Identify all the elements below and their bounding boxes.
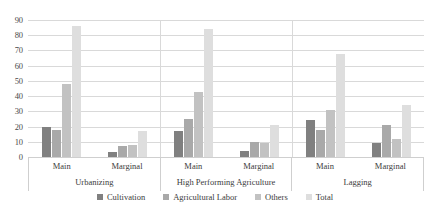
plot-area [28,20,424,157]
bar-subgroup [292,20,358,157]
bar-subgroup [160,20,226,157]
category-group-label: Lagging [292,174,423,190]
bar [382,125,391,157]
chart-legend: CultivationAgricultural LaborOthersTotal [0,193,430,202]
y-axis-tick-label: 10 [15,138,23,147]
grouped-bar-chart: 9080706050403020100 MainMarginalUrbanizi… [0,0,430,217]
bar-subgroup [28,20,94,157]
legend-item[interactable]: Total [306,193,333,202]
legend-label: Agricultural Labor [173,193,237,202]
legend-label: Cultivation [107,193,145,202]
bars-layer [28,20,424,157]
legend-label: Others [265,193,288,202]
bar [52,130,61,157]
bar [204,29,213,157]
legend-label: Total [316,193,333,202]
legend-swatch-icon [163,194,169,200]
bar [326,110,335,157]
legend-swatch-icon [306,194,312,200]
legend-item[interactable]: Agricultural Labor [163,193,237,202]
y-axis-tick-label: 40 [15,92,23,101]
bar [128,145,137,157]
category-sub-label: Main [29,158,94,174]
legend-item[interactable]: Cultivation [97,193,145,202]
category-group: MainMarginalLagging [292,158,424,191]
bar [138,131,147,157]
bar-subgroup [226,20,292,157]
bar [392,139,401,157]
bar [118,146,127,157]
bar [260,143,269,157]
bar-group [160,20,292,157]
bar [194,92,203,157]
bar [270,125,279,157]
legend-swatch-icon [97,194,103,200]
category-sub-label: Main [292,158,357,174]
bar [184,119,193,157]
y-axis-tick-label: 60 [15,61,23,70]
bar-group [28,20,160,157]
category-group: MainMarginalHigh Performing Agriculture [161,158,293,191]
y-axis-tick-label: 0 [19,153,23,162]
y-axis-tick-label: 80 [15,31,23,40]
category-sub-label: Marginal [226,158,291,174]
y-axis-tick-label: 30 [15,107,23,116]
bar [372,143,381,157]
bar [316,130,325,157]
y-axis-tick-label: 90 [15,16,23,25]
category-axis: MainMarginalUrbanizingMainMarginalHigh P… [28,157,424,191]
bar [250,142,259,157]
category-sub-label: Marginal [358,158,423,174]
category-group: MainMarginalUrbanizing [28,158,161,191]
bar [336,54,345,158]
bar-group [292,20,424,157]
y-axis-tick-label: 20 [15,122,23,131]
bar-subgroup [94,20,160,157]
category-sub-label: Main [161,158,226,174]
y-axis-tick-label: 50 [15,77,23,86]
bar [174,131,183,157]
bar-subgroup [358,20,424,157]
bar [42,127,51,157]
category-group-label: Urbanizing [29,174,160,190]
legend-swatch-icon [255,194,261,200]
y-axis: 9080706050403020100 [0,20,26,157]
legend-item[interactable]: Others [255,193,288,202]
bar [306,120,315,157]
bar [72,26,81,157]
category-group-label: High Performing Agriculture [161,174,292,190]
y-axis-tick-label: 70 [15,46,23,55]
bar [62,84,71,157]
category-sub-label: Marginal [94,158,159,174]
bar [402,105,411,157]
